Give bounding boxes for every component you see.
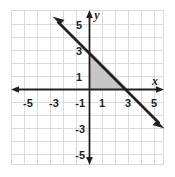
coordinate-plane-figure: -5 -3 1 3 5 5 3 1 -1 -3 -5 x y [0,0,175,177]
y-axis-label: y [92,8,100,22]
y-tick-label-1: 1 [76,71,82,83]
x-tick-label-neg5: -5 [23,97,33,109]
y-tick-label-neg5: -5 [75,149,85,161]
y-tick-label-3: 3 [76,45,82,57]
y-tick-label-neg1: -1 [75,97,85,109]
coordinate-plane-svg: -5 -3 1 3 5 5 3 1 -1 -3 -5 x y [0,0,175,177]
x-tick-label-5: 5 [151,97,157,109]
y-tick-label-neg3: -3 [75,123,85,135]
x-axis-label: x [151,74,158,88]
x-tick-label-1: 1 [99,97,105,109]
x-tick-label-neg3: -3 [49,97,59,109]
x-tick-label-3: 3 [125,97,131,109]
y-tick-label-5: 5 [76,19,82,31]
